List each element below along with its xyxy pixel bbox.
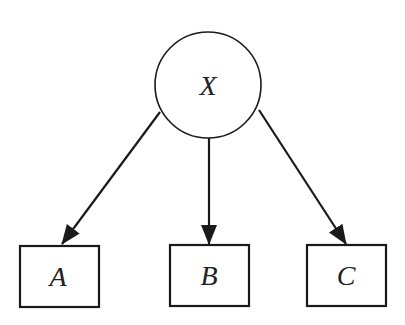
node-a: A [20,246,99,307]
node-a-label: A [47,261,67,292]
node-b: B [170,245,249,306]
node-c-label: C [337,260,356,291]
node-b-label: B [200,260,217,291]
edge-x-to-c [259,110,346,244]
edge-x-to-a [62,112,160,244]
node-c: C [307,245,386,306]
diagram-canvas: X A B C [0,0,405,325]
node-x-label: X [198,70,217,101]
node-x: X [155,32,261,138]
